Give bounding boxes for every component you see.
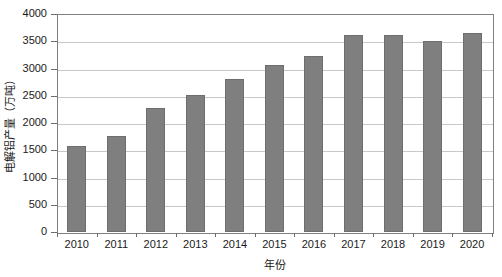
x-axis-label: 2020 (452, 238, 492, 252)
x-axis-label: 2011 (97, 238, 137, 252)
x-axis-title: 年份 (57, 256, 492, 272)
y-axis-label: 2500 (0, 89, 47, 101)
y-axis-label: 0 (0, 225, 47, 237)
bar-slot[interactable] (413, 14, 453, 232)
bar-slot[interactable] (215, 14, 255, 232)
x-axis-tick (373, 233, 374, 237)
bar[interactable] (186, 95, 205, 232)
y-axis-label: 3000 (0, 62, 47, 74)
x-axis-label: 2013 (176, 238, 216, 252)
bar[interactable] (265, 65, 284, 232)
x-axis-tick (176, 233, 177, 237)
x-axis-label: 2018 (373, 238, 413, 252)
x-axis-label: 2016 (294, 238, 334, 252)
bar[interactable] (146, 108, 165, 232)
x-axis-tick (57, 233, 58, 237)
x-axis-label: 2014 (215, 238, 255, 252)
bar-slot[interactable] (334, 14, 374, 232)
y-axis-label: 4000 (0, 7, 47, 19)
x-axis-tick (413, 233, 414, 237)
y-axis-label: 500 (0, 198, 47, 210)
bar-slot[interactable] (373, 14, 413, 232)
bar[interactable] (107, 136, 126, 232)
y-axis-label: 3500 (0, 34, 47, 46)
bar-slot[interactable] (57, 14, 97, 232)
x-axis-label: 2015 (255, 238, 295, 252)
bar-slot[interactable] (176, 14, 216, 232)
x-axis-label: 2017 (334, 238, 374, 252)
bar-slot[interactable] (452, 14, 492, 232)
x-axis-label: 2010 (57, 238, 97, 252)
x-axis-tick (97, 233, 98, 237)
bar[interactable] (423, 41, 442, 232)
bar[interactable] (225, 79, 244, 232)
x-axis-tick (492, 233, 493, 237)
bar[interactable] (304, 56, 323, 232)
bar-series (57, 14, 492, 232)
bar-slot[interactable] (294, 14, 334, 232)
bar[interactable] (384, 35, 403, 232)
bar[interactable] (463, 33, 482, 232)
x-axis-tick (215, 233, 216, 237)
x-axis-labels: 2010201120122013201420152016201720182019… (57, 238, 492, 252)
x-axis-label: 2019 (413, 238, 453, 252)
x-axis-tick (294, 233, 295, 237)
y-axis-label: 1000 (0, 171, 47, 183)
y-axis-label: 1500 (0, 143, 47, 155)
x-axis-tick (136, 233, 137, 237)
x-axis-tick (334, 233, 335, 237)
bar[interactable] (67, 146, 86, 232)
x-axis-tick (452, 233, 453, 237)
x-axis-label: 2012 (136, 238, 176, 252)
bar-slot[interactable] (136, 14, 176, 232)
bar-slot[interactable] (255, 14, 295, 232)
bar-chart: 电解铝产量（万吨） 050010001500200025003000350040… (0, 0, 502, 277)
x-axis-ticks (57, 233, 492, 237)
x-axis-tick (255, 233, 256, 237)
bar[interactable] (344, 35, 363, 232)
y-axis-label: 2000 (0, 116, 47, 128)
bar-slot[interactable] (97, 14, 137, 232)
